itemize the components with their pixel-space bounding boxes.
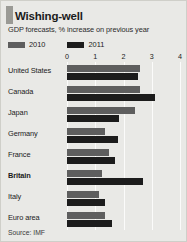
x-tick-label: 0: [65, 52, 69, 61]
gridline: [180, 62, 181, 230]
bar-2011-italy: [67, 199, 105, 206]
chart-legend: 2010 2011: [8, 40, 180, 49]
legend-swatch-2010: [8, 42, 25, 48]
chart-row: Germany: [8, 125, 180, 146]
chart-row: Britain: [8, 167, 180, 188]
chart-card: Wishing-well GDP forecasts, % increase o…: [0, 0, 187, 242]
chart-inner: Wishing-well GDP forecasts, % increase o…: [1, 1, 186, 241]
legend-swatch-2011: [67, 42, 84, 48]
bar-2011-canada: [67, 94, 155, 101]
bar-2010-britain: [67, 170, 102, 177]
row-bars: [8, 211, 180, 228]
bar-2011-france: [67, 157, 115, 164]
bar-2010-germany: [67, 128, 105, 135]
page-title: Wishing-well: [15, 10, 180, 22]
bar-2011-united-states: [67, 73, 138, 80]
row-bars: [8, 148, 180, 165]
chart-row: United States: [8, 62, 180, 83]
chart-row: Italy: [8, 188, 180, 209]
x-tick-label: 4: [178, 52, 182, 61]
row-bars: [8, 106, 180, 123]
legend-item-2011: 2011: [67, 41, 104, 49]
bar-2010-canada: [67, 86, 140, 93]
row-bars: [8, 169, 180, 186]
row-bars: [8, 85, 180, 102]
x-tick-label: 1: [93, 52, 97, 61]
legend-label-2011: 2011: [88, 41, 104, 49]
chart-source: Source: IMF: [8, 229, 45, 237]
bar-2010-euro-area: [67, 212, 105, 219]
x-tick-label: 2: [122, 52, 126, 61]
bar-2010-japan: [67, 107, 135, 114]
bar-2010-italy: [67, 191, 99, 198]
legend-label-2010: 2010: [29, 41, 45, 49]
x-axis-tick-labels: 01234: [8, 52, 180, 62]
row-bars: [8, 64, 180, 81]
chart-row: Japan: [8, 104, 180, 125]
bar-2011-japan: [67, 115, 119, 122]
row-bars: [8, 127, 180, 144]
legend-item-2010: 2010: [8, 41, 45, 49]
bar-2011-britain: [67, 178, 143, 185]
bar-2010-united-states: [67, 65, 140, 72]
x-tick-label: 3: [150, 52, 154, 61]
row-bars: [8, 190, 180, 207]
bar-2011-germany: [67, 136, 118, 143]
chart-subtitle: GDP forecasts, % increase on previous ye…: [8, 25, 180, 34]
bar-2011-euro-area: [67, 220, 112, 227]
bar-2010-france: [67, 149, 109, 156]
chart-plot-area: 01234 United StatesCanadaJapanGermanyFra…: [8, 52, 180, 230]
chart-row: Canada: [8, 83, 180, 104]
chart-row: France: [8, 146, 180, 167]
chart-bar-rows: United StatesCanadaJapanGermanyFranceBri…: [8, 62, 180, 230]
chart-row: Euro area: [8, 209, 180, 230]
